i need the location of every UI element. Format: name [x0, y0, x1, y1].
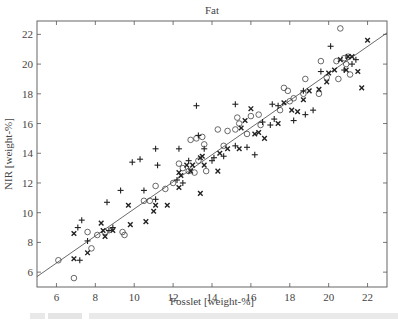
cross-marker [99, 221, 104, 226]
plus-marker [260, 119, 266, 125]
cross-marker [225, 146, 230, 151]
y-axis-label: NIR [weight-%] [2, 118, 14, 190]
plus-marker [267, 122, 273, 128]
y-tick-label: 20 [22, 58, 34, 70]
plus-marker [193, 103, 199, 109]
circle-marker [303, 76, 309, 82]
cross-marker [177, 185, 182, 190]
circle-marker [343, 61, 349, 67]
x-tick-label: 10 [129, 291, 141, 303]
cross-marker [85, 251, 90, 256]
y-axis: 6810121416182022 [22, 28, 387, 278]
cross-marker [72, 256, 77, 261]
cross-marker [184, 163, 189, 168]
cross-marker [126, 203, 131, 208]
y-tick-label: 14 [22, 147, 34, 159]
circle-marker [256, 112, 262, 118]
figure-caption-cutoff [30, 313, 398, 319]
cross-marker [101, 228, 106, 233]
circle-marker [318, 58, 324, 64]
cross-marker [153, 203, 158, 208]
x-tick-label: 8 [93, 291, 99, 303]
cross-marker [237, 146, 242, 151]
plot-area [37, 21, 387, 287]
y-tick-label: 16 [22, 118, 34, 130]
circle-marker [244, 131, 250, 137]
plus-marker [141, 187, 147, 193]
cross-marker [332, 68, 337, 73]
x-tick-label: 22 [362, 291, 373, 303]
x-axis-label: Fosslet [weight-%] [170, 295, 254, 307]
cross-marker [128, 222, 133, 227]
plus-marker [269, 101, 275, 107]
x-axis: 6810121416182022 [54, 21, 373, 303]
x-tick-label: 18 [284, 291, 296, 303]
circle-marker [85, 229, 91, 235]
plus-marker [104, 199, 110, 205]
plus-marker [318, 69, 324, 75]
y-tick-label: 22 [22, 28, 33, 40]
plus-marker [275, 103, 281, 109]
cross-marker [72, 231, 77, 236]
circle-marker [338, 26, 344, 32]
cross-marker [262, 136, 267, 141]
circle-marker [225, 128, 231, 134]
plus-marker [129, 159, 135, 165]
plus-marker [176, 146, 182, 152]
scatter-chart: Fat 6810121416182022 6810121416182022 Fo… [0, 0, 398, 323]
circle-marker [153, 183, 159, 189]
cross-marker [356, 69, 361, 74]
cross-marker [144, 219, 149, 224]
plus-marker [195, 132, 201, 138]
cross-marker [301, 97, 306, 102]
y-tick-label: 10 [22, 207, 34, 219]
cross-marker [216, 169, 221, 174]
data-points [56, 26, 370, 281]
y-tick-label: 8 [28, 236, 34, 248]
cross-marker [202, 163, 207, 168]
circle-marker [285, 88, 291, 94]
cross-marker [249, 106, 254, 111]
cross-marker [295, 109, 300, 114]
plus-marker [137, 156, 143, 162]
circle-marker [147, 198, 153, 204]
cross-marker [276, 121, 281, 126]
circle-marker [248, 113, 254, 119]
circle-marker [234, 115, 240, 121]
cross-marker [289, 108, 294, 113]
cross-marker [190, 163, 195, 168]
plus-marker [77, 257, 83, 263]
cross-marker [198, 191, 203, 196]
plus-marker [252, 152, 258, 158]
circle-marker [233, 127, 239, 133]
cross-marker [307, 89, 312, 94]
cross-marker [239, 126, 244, 131]
cross-marker [200, 154, 205, 159]
x-tick-label: 6 [54, 291, 60, 303]
cross-marker [165, 203, 170, 208]
chart-title: Fat [205, 4, 219, 16]
plus-marker [75, 225, 81, 231]
x-tick-label: 20 [323, 291, 335, 303]
circle-marker [287, 98, 293, 104]
circle-marker [336, 76, 342, 82]
cross-marker [359, 86, 364, 91]
cross-marker [365, 38, 370, 43]
plus-marker [244, 144, 250, 150]
circle-marker [203, 168, 209, 174]
cross-marker [217, 151, 222, 156]
y-tick-label: 18 [22, 88, 34, 100]
cross-marker [326, 71, 331, 76]
y-tick-label: 12 [22, 177, 33, 189]
plus-marker [79, 217, 85, 223]
circle-marker [215, 127, 221, 133]
plus-marker [155, 162, 161, 168]
plus-marker [349, 61, 355, 67]
plus-marker [232, 101, 238, 107]
cross-marker [243, 118, 248, 123]
plus-marker [118, 187, 124, 193]
y-tick-label: 6 [28, 266, 34, 278]
plus-marker [153, 196, 159, 202]
plus-marker [328, 43, 334, 49]
plus-marker [310, 107, 316, 113]
